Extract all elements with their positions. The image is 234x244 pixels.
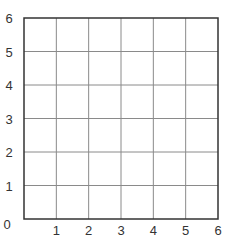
y-tick-label: 6 xyxy=(5,11,12,26)
y-tick-label: 5 xyxy=(5,45,12,60)
y-tick-label: 4 xyxy=(5,78,12,93)
y-tick-label: 1 xyxy=(5,179,12,194)
x-tick-label: 1 xyxy=(53,223,60,238)
y-tick-label: 3 xyxy=(5,112,12,127)
x-tick-label: 3 xyxy=(117,223,124,238)
y-axis-tick-labels: 0123456 xyxy=(3,11,12,232)
x-axis-tick-labels: 123456 xyxy=(53,223,222,238)
x-tick-label: 2 xyxy=(85,223,92,238)
gridlines xyxy=(24,18,218,219)
x-tick-label: 6 xyxy=(214,223,221,238)
x-tick-label: 5 xyxy=(182,223,189,238)
coordinate-grid: 123456 0123456 xyxy=(0,0,234,244)
y-tick-label: 2 xyxy=(5,145,12,160)
origin-label: 0 xyxy=(3,217,10,232)
x-tick-label: 4 xyxy=(150,223,157,238)
